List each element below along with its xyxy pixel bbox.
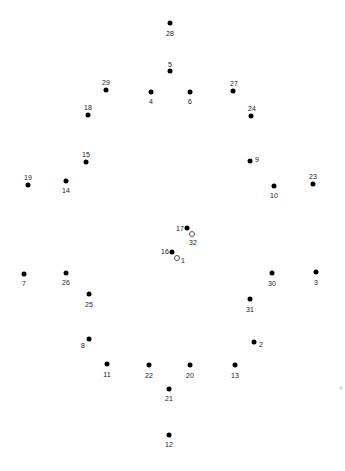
- dot-label-20: 20: [186, 372, 194, 379]
- dot-14[interactable]: [64, 179, 69, 184]
- dot-label-1: 1: [181, 257, 185, 264]
- dot-12[interactable]: [167, 433, 172, 438]
- dot-label-27: 27: [230, 80, 238, 87]
- dot-label-12: 12: [165, 441, 173, 448]
- dot-3[interactable]: [314, 270, 319, 275]
- dot-label-3: 3: [314, 279, 318, 286]
- dot-label-16: 16: [161, 248, 169, 255]
- dot-label-6: 6: [188, 98, 192, 105]
- dot-label-31: 31: [246, 306, 254, 313]
- dot-24[interactable]: [249, 114, 254, 119]
- dot-label-26: 26: [62, 279, 70, 286]
- dot-8[interactable]: [87, 337, 92, 342]
- dot-label-2: 2: [259, 341, 263, 348]
- dot-23[interactable]: [311, 182, 316, 187]
- dot-11[interactable]: [105, 362, 110, 367]
- dot-29[interactable]: [104, 88, 109, 93]
- dot-7[interactable]: [22, 272, 27, 277]
- dot-label-22: 22: [145, 372, 153, 379]
- dot-9[interactable]: [248, 159, 253, 164]
- dot-label-11: 11: [103, 371, 110, 378]
- dot-label-13: 13: [231, 372, 239, 379]
- connect-the-dots-canvas: 2852946271824159191410231732161726303253…: [0, 0, 345, 471]
- dot-label-8: 8: [81, 342, 85, 349]
- dot-30[interactable]: [270, 271, 275, 276]
- dot-17[interactable]: [185, 226, 190, 231]
- dot-label-32: 32: [189, 239, 197, 246]
- dot-21[interactable]: [167, 387, 172, 392]
- dot-2[interactable]: [252, 340, 257, 345]
- dot-label-14: 14: [62, 187, 70, 194]
- dot-label-4: 4: [149, 98, 153, 105]
- dot-5[interactable]: [168, 69, 173, 74]
- dot-label-5: 5: [168, 61, 172, 68]
- dot-label-29: 29: [102, 79, 110, 86]
- dot-18[interactable]: [86, 113, 91, 118]
- dot-25[interactable]: [87, 292, 92, 297]
- dot-label-21: 21: [165, 395, 173, 402]
- dot-label-23: 23: [309, 173, 317, 180]
- dot-label-30: 30: [268, 280, 276, 287]
- dot-32[interactable]: [189, 231, 195, 237]
- dot-27[interactable]: [231, 89, 236, 94]
- dot-1[interactable]: [174, 255, 180, 261]
- dot-label-24: 24: [248, 105, 256, 112]
- dot-22[interactable]: [147, 363, 152, 368]
- dot-10[interactable]: [272, 184, 277, 189]
- dot-28[interactable]: [168, 21, 173, 26]
- dot-16[interactable]: [170, 250, 175, 255]
- dot-label-17: 17: [176, 225, 184, 232]
- dot-6[interactable]: [188, 90, 193, 95]
- dot-31[interactable]: [248, 297, 253, 302]
- dot-label-18: 18: [84, 104, 92, 111]
- dot-label-19: 19: [24, 174, 32, 181]
- dot-label-7: 7: [22, 280, 26, 287]
- dot-19[interactable]: [26, 183, 31, 188]
- dot-4[interactable]: [149, 90, 154, 95]
- dot-20[interactable]: [188, 363, 193, 368]
- dot-13[interactable]: [233, 363, 238, 368]
- corner-mark: [340, 387, 343, 390]
- dot-label-15: 15: [82, 151, 90, 158]
- dot-26[interactable]: [64, 271, 69, 276]
- dot-label-10: 10: [270, 192, 278, 199]
- dot-label-9: 9: [255, 156, 259, 163]
- dot-15[interactable]: [84, 160, 89, 165]
- dot-label-25: 25: [85, 301, 93, 308]
- dot-label-28: 28: [166, 30, 174, 37]
